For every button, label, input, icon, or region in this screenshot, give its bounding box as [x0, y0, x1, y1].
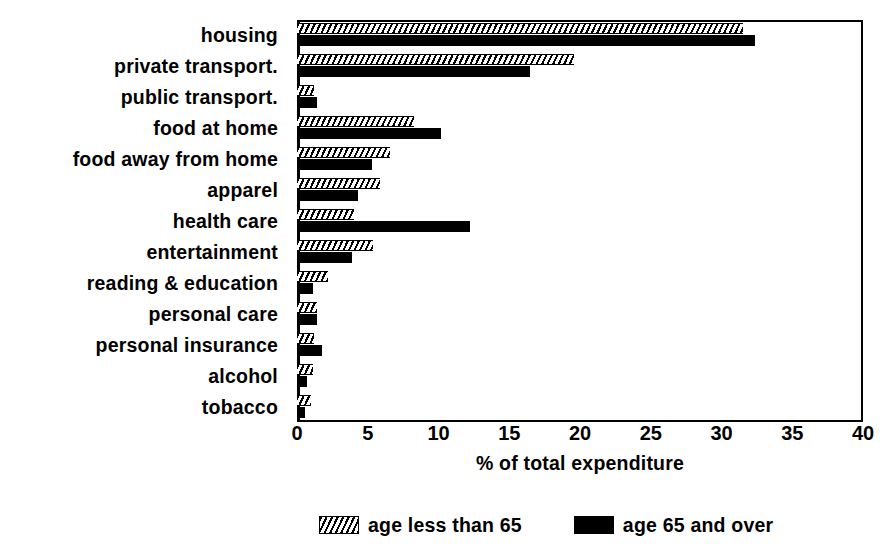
- bar-age-less-than-65: [297, 333, 314, 344]
- category-label: food away from home: [73, 144, 278, 175]
- category-label: private transport.: [114, 51, 278, 82]
- category-label: food at home: [153, 113, 278, 144]
- x-tick-label: 40: [852, 422, 874, 445]
- hatched-swatch-icon: [319, 516, 359, 534]
- x-tick-label: 30: [710, 422, 732, 445]
- bar-group: [297, 113, 863, 144]
- category-label: personal insurance: [96, 330, 278, 361]
- x-axis-tick-labels: 0510152025303540: [297, 422, 863, 448]
- expenditure-bar-chart: housingprivate transport.public transpor…: [0, 0, 893, 557]
- x-tick-label: 10: [427, 422, 449, 445]
- bar-age-65-and-over: [297, 314, 317, 325]
- category-label: personal care: [149, 299, 278, 330]
- chart-legend: age less than 65 age 65 and over: [297, 510, 863, 540]
- category-label: apparel: [207, 175, 278, 206]
- bar-age-65-and-over: [297, 159, 372, 170]
- bar-group: [297, 361, 863, 392]
- category-label: health care: [173, 206, 278, 237]
- bar-age-65-and-over: [297, 221, 470, 232]
- bar-group: [297, 268, 863, 299]
- plot-area: [297, 20, 863, 422]
- x-tick-label: 0: [291, 422, 302, 445]
- category-axis-labels: housingprivate transport.public transpor…: [0, 20, 288, 422]
- x-tick-label: 15: [498, 422, 520, 445]
- category-label: alcohol: [208, 361, 278, 392]
- bar-age-65-and-over: [297, 345, 322, 356]
- bar-age-less-than-65: [297, 147, 390, 158]
- bar-age-less-than-65: [297, 54, 574, 65]
- bar-group: [297, 144, 863, 175]
- bar-group: [297, 299, 863, 330]
- bar-age-65-and-over: [297, 283, 313, 294]
- x-tick-label: 20: [569, 422, 591, 445]
- x-tick-label: 5: [362, 422, 373, 445]
- bar-group: [297, 237, 863, 268]
- bar-group: [297, 20, 863, 51]
- bar-group: [297, 175, 863, 206]
- bar-age-less-than-65: [297, 240, 373, 251]
- bar-age-65-and-over: [297, 252, 352, 263]
- bar-age-less-than-65: [297, 302, 317, 313]
- bar-age-65-and-over: [297, 376, 307, 387]
- category-label: tobacco: [202, 392, 278, 423]
- x-tick-label: 25: [640, 422, 662, 445]
- category-label: public transport.: [121, 82, 278, 113]
- bar-age-less-than-65: [297, 85, 314, 96]
- bar-age-less-than-65: [297, 209, 354, 220]
- bar-age-65-and-over: [297, 66, 530, 77]
- legend-label-age-65-and-over: age 65 and over: [623, 514, 773, 537]
- category-label: entertainment: [146, 237, 278, 268]
- bar-age-less-than-65: [297, 23, 743, 34]
- bar-age-65-and-over: [297, 128, 441, 139]
- bar-age-less-than-65: [297, 116, 414, 127]
- bar-age-less-than-65: [297, 364, 313, 375]
- bar-age-less-than-65: [297, 178, 380, 189]
- legend-item-age-65-and-over: age 65 and over: [574, 514, 773, 537]
- bar-age-65-and-over: [297, 407, 305, 418]
- x-axis-title: % of total expenditure: [297, 452, 863, 475]
- category-label: housing: [201, 20, 278, 51]
- legend-item-age-less-than-65: age less than 65: [319, 514, 522, 537]
- bar-group: [297, 82, 863, 113]
- x-tick-label: 35: [781, 422, 803, 445]
- bar-age-65-and-over: [297, 35, 755, 46]
- bar-group: [297, 330, 863, 361]
- legend-label-age-less-than-65: age less than 65: [368, 514, 522, 537]
- bar-age-65-and-over: [297, 190, 358, 201]
- bar-age-less-than-65: [297, 395, 311, 406]
- solid-swatch-icon: [574, 516, 614, 534]
- bar-age-less-than-65: [297, 271, 328, 282]
- category-label: reading & education: [87, 268, 278, 299]
- bar-age-65-and-over: [297, 97, 317, 108]
- bar-group: [297, 206, 863, 237]
- bar-group: [297, 51, 863, 82]
- bar-group: [297, 392, 863, 423]
